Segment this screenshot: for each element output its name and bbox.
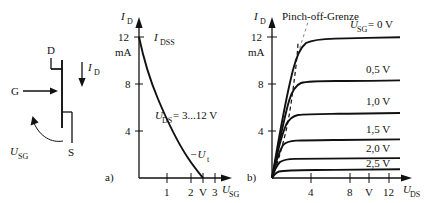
chart-b-panel-label: b) bbox=[247, 171, 257, 184]
chart-a-idss-label-sub: DSS bbox=[160, 38, 175, 47]
chart-a-ylabel-8: 8 bbox=[125, 78, 131, 90]
chart-b-x-axis-title-sub: DS bbox=[410, 190, 420, 199]
chart-a-panel-label: a) bbox=[105, 171, 114, 184]
chart-a-ylabel-4: 4 bbox=[125, 125, 131, 137]
terminal-source-label: S bbox=[68, 146, 74, 158]
chart-a-transfer-characteristic: 12 mA 8 4 1 2 V 3 I D U SG I DSS U DS = … bbox=[105, 10, 239, 199]
symbol-current-sub: D bbox=[94, 68, 100, 77]
chart-b-ylabel-12: 12 bbox=[251, 31, 262, 43]
chart-b-y-axis-arrow-icon bbox=[268, 17, 275, 28]
chart-a-threshold-label: −U bbox=[190, 148, 206, 160]
p-channel-jfet-symbol: D G S I D U SG bbox=[10, 44, 100, 161]
usg-arc bbox=[34, 123, 63, 141]
chart-b-curve-usg-2p5v bbox=[272, 169, 400, 178]
chart-a-xlabel-2: 2 bbox=[188, 186, 194, 198]
chart-a-ylabel-12: 12 bbox=[118, 31, 129, 43]
chart-b-y-axis-title-sub: D bbox=[260, 17, 266, 26]
symbol-voltage-sub: SG bbox=[18, 152, 28, 161]
chart-a-idss-label: I bbox=[153, 31, 159, 43]
chart-b-curve-label-1p0v: 1,0 V bbox=[366, 95, 390, 107]
chart-b-usg-legend-sub: SG bbox=[357, 25, 367, 34]
chart-a-y-axis-arrow-icon bbox=[135, 17, 142, 28]
chart-a-x-axis-arrow-icon bbox=[221, 174, 232, 181]
chart-a-xlabel-3: 3 bbox=[212, 186, 218, 198]
chart-b-ylabel-8: 8 bbox=[258, 78, 264, 90]
chart-b-yunit: mA bbox=[248, 46, 265, 58]
drain-current-arrow-icon bbox=[78, 78, 85, 87]
chart-b-output-characteristics: 12 mA 8 4 4 8 V 12 I D U DS Pinch-off-Gr… bbox=[247, 10, 420, 199]
chart-a-xunit: V bbox=[199, 186, 207, 198]
chart-a-threshold-label-sub: t bbox=[207, 155, 210, 164]
chart-b-xlabel-4: 4 bbox=[308, 186, 314, 198]
chart-b-xlabel-8: 8 bbox=[347, 186, 353, 198]
chart-b-curve-label-1p5v: 1,5 V bbox=[366, 123, 390, 135]
symbol-current-label: I bbox=[87, 61, 93, 73]
chart-b-usg-legend-rest: = 0 V bbox=[368, 18, 393, 30]
chart-a-uds-condition-sub: DS bbox=[162, 116, 172, 125]
chart-a-y-axis-title-sub: D bbox=[127, 17, 133, 26]
chart-b-xlabel-12: 12 bbox=[383, 186, 394, 198]
chart-b-curve-label-2p0v: 2,0 V bbox=[366, 142, 390, 154]
chart-b-xunit: V bbox=[365, 186, 373, 198]
chart-b-pinch-off-label: Pinch-off-Grenze bbox=[282, 10, 359, 22]
terminal-drain-label: D bbox=[47, 44, 55, 56]
gate-arrow-icon bbox=[50, 87, 58, 94]
chart-b-curve-label-2p5v: 2,5 V bbox=[366, 157, 390, 169]
chart-b-ylabel-4: 4 bbox=[258, 125, 264, 137]
chart-a-xlabel-1: 1 bbox=[164, 186, 170, 198]
chart-a-x-axis-title-sub: SG bbox=[229, 190, 239, 199]
chart-a-uds-condition-rest: = 3...12 V bbox=[173, 109, 217, 121]
terminal-gate-label: G bbox=[11, 85, 19, 97]
chart-b-y-axis-title: I bbox=[253, 10, 259, 22]
chart-a-y-axis-title: I bbox=[120, 10, 126, 22]
chart-b-x-axis-arrow-icon bbox=[401, 174, 412, 181]
chart-b-curve-label-0p5v: 0,5 V bbox=[366, 63, 390, 75]
figure-root: D G S I D U SG 12 mA 8 4 1 2 V 3 bbox=[0, 0, 443, 203]
chart-a-yunit: mA bbox=[115, 46, 132, 58]
